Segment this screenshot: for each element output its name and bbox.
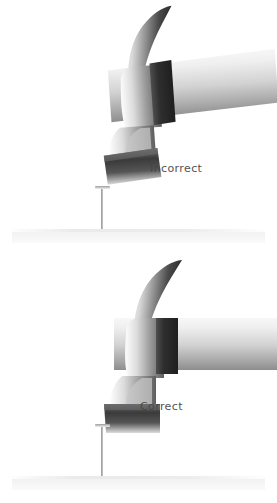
work-surface xyxy=(12,229,265,243)
hammer-correct xyxy=(52,260,277,450)
scene-correct: Correct xyxy=(0,252,277,503)
hammer-neck xyxy=(156,318,178,374)
label-incorrect: Incorrect xyxy=(150,162,202,175)
work-surface xyxy=(12,476,265,490)
illustration-figure: Incorrect xyxy=(0,0,277,503)
scene-incorrect: Incorrect xyxy=(0,0,277,252)
panel-correct: Correct xyxy=(0,252,277,503)
hammer-neck xyxy=(149,60,175,125)
panel-incorrect: Incorrect xyxy=(0,0,277,252)
nail-correct xyxy=(101,424,117,484)
label-correct: Correct xyxy=(140,400,183,413)
hammer-illustration xyxy=(52,260,277,450)
